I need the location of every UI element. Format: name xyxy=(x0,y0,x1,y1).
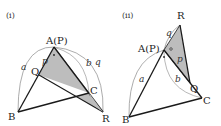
side-AB xyxy=(129,50,164,117)
side-label-b: b xyxy=(86,58,92,68)
panel-ii: (ii) A(P) B C Q R a q p b xyxy=(122,10,211,125)
angle-dot xyxy=(163,56,165,58)
angle-dot xyxy=(53,54,55,56)
side-label-q: q xyxy=(95,57,101,67)
panel-i: (i) A(P) B C Q R a p b q xyxy=(6,11,110,124)
vertex-C: C xyxy=(90,85,98,96)
vertex-C: C xyxy=(203,95,211,106)
vertex-A: A(P) xyxy=(45,35,68,46)
side-label-p: p xyxy=(42,56,48,66)
side-label-a: a xyxy=(139,74,144,84)
side-label-a: a xyxy=(21,62,26,72)
side-BC xyxy=(129,98,202,117)
vertex-A: A(P) xyxy=(137,43,160,54)
panel-i-label: (i) xyxy=(6,11,15,20)
vertex-R: R xyxy=(102,113,110,124)
diagram: (i) A(P) B C Q R a p b q (ii) xyxy=(0,0,221,126)
vertex-R: R xyxy=(177,10,185,21)
side-label-q: q xyxy=(166,28,172,38)
side-label-b: b xyxy=(175,74,181,84)
panel-ii-label: (ii) xyxy=(122,11,133,20)
vertex-Q: Q xyxy=(31,66,39,77)
side-label-p: p xyxy=(177,54,183,64)
vertex-Q: Q xyxy=(190,83,198,94)
vertex-B: B xyxy=(8,111,15,122)
vertex-B: B xyxy=(122,114,129,125)
